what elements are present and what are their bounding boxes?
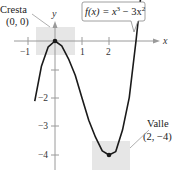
x-tick-label-neg1: −1 [20, 47, 30, 57]
x-tick-label-1: 1 [80, 47, 85, 57]
y-axis-arrow-icon [53, 21, 58, 28]
crest-coords: (0, 0) [6, 16, 29, 28]
valley-label: Valle [147, 118, 169, 129]
valley-point [107, 153, 112, 158]
valley-coords: (2, −4) [143, 131, 172, 143]
x-axis-arrow-icon [153, 39, 160, 44]
x-tick-label-2: 2 [106, 47, 111, 57]
y-tick-label-neg4: −4 [38, 150, 48, 160]
y-tick-label-neg2: −2 [38, 93, 48, 103]
y-tick-label-neg3: −3 [38, 121, 48, 131]
equation-text: f(x) = x3 − 3x2 [85, 5, 146, 18]
crest-leader-line [32, 14, 50, 27]
crest-label: Cresta [0, 4, 27, 15]
y-axis-label: y [51, 8, 57, 19]
x-axis-label: x [162, 35, 168, 46]
function-graph: x y −1 1 2 −2 −3 −4 Cresta (0, 0) Valle … [0, 0, 182, 178]
crest-point [53, 39, 58, 44]
equation-callout: f(x) = x3 − 3x2 [82, 2, 146, 32]
function-curve [35, 0, 141, 155]
